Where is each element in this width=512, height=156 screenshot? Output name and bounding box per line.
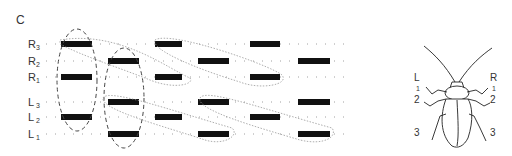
row-label-subscript: 2	[36, 117, 40, 124]
right-leg-1	[467, 88, 488, 94]
leg-row-R3: R3	[28, 38, 346, 51]
right-leg-2	[468, 99, 490, 106]
stance-bar	[61, 114, 92, 120]
insect-left-leg-2: 2	[414, 94, 420, 105]
left-antenna	[424, 46, 455, 82]
stance-bar	[250, 114, 280, 120]
row-label: L	[28, 128, 34, 140]
stance-bar	[61, 41, 92, 47]
stance-bar	[155, 41, 182, 47]
stance-bar	[198, 131, 229, 137]
stance-bar	[155, 114, 182, 120]
row-label: L	[28, 96, 34, 108]
insect-right-letter: R	[490, 72, 497, 83]
stance-bar	[298, 58, 330, 64]
insect-left-leg-1: 1	[416, 85, 420, 92]
row-label: R	[28, 71, 36, 83]
stance-bar	[250, 74, 280, 80]
row-label: R	[28, 55, 36, 67]
tripod-gait-diagram: C R3R2R1L3L2L1 L 1 2 3 R 1 2 3	[0, 0, 512, 156]
cockroach-illustration	[424, 46, 492, 147]
left-leg-1	[426, 87, 447, 94]
stance-bar	[298, 131, 330, 137]
row-label-subscript: 1	[36, 134, 40, 141]
stance-bar	[108, 99, 139, 105]
insect-left-leg-3: 3	[414, 127, 420, 138]
stance-bar	[155, 74, 182, 80]
stepping-pattern: R3R2R1L3L2L1	[28, 38, 346, 141]
stance-bar	[61, 74, 92, 80]
stance-bar	[108, 58, 139, 64]
leg-row-R1: R1	[28, 71, 346, 84]
stance-bar	[298, 99, 330, 105]
leg-row-L2: L2	[28, 111, 346, 124]
insect-right-leg-3: 3	[490, 127, 496, 138]
insect-right-leg-2: 2	[490, 94, 496, 105]
row-label: R	[28, 38, 36, 50]
stance-bar	[250, 41, 280, 47]
row-label-subscript: 3	[36, 102, 40, 109]
metachronal-wave-outlines	[60, 38, 333, 142]
row-label-subscript: 2	[36, 61, 40, 68]
leg-row-L1: L1	[28, 128, 346, 141]
insect-right-leg-1: 1	[492, 85, 496, 92]
stance-bar	[198, 58, 229, 64]
row-label-subscript: 3	[36, 44, 40, 51]
left-leg-2	[424, 99, 446, 106]
leg-row-L3: L3	[28, 96, 346, 109]
row-label-subscript: 1	[36, 77, 40, 84]
panel-label: C	[16, 13, 25, 27]
stance-bar	[108, 131, 139, 137]
leg-row-R2: R2	[28, 55, 346, 68]
right-antenna	[459, 48, 492, 82]
insect-left-letter: L	[414, 72, 420, 83]
pronotum	[445, 86, 469, 100]
row-label: L	[28, 111, 34, 123]
